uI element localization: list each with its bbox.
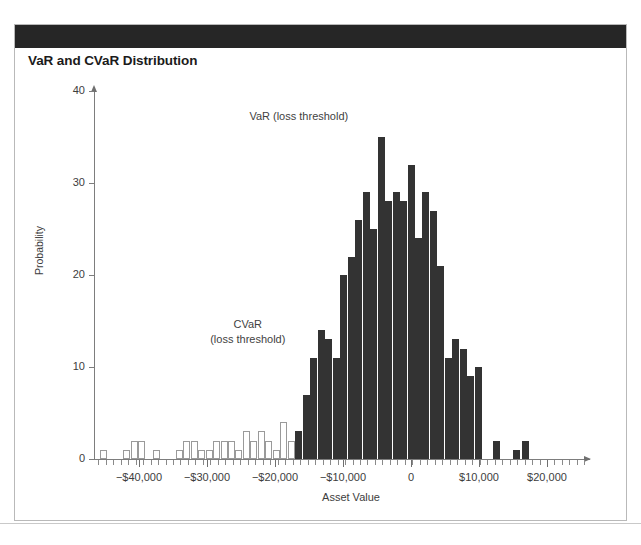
- x-tick-mark-minor: [106, 460, 107, 465]
- x-tick-label: −$40,000: [116, 471, 162, 483]
- histogram-bar: [235, 450, 242, 459]
- x-tick-label: −$20,000: [252, 471, 298, 483]
- histogram-bar: [522, 441, 529, 459]
- histogram-bar: [513, 450, 520, 459]
- x-tick-mark-minor: [300, 460, 301, 465]
- histogram-bar: [430, 211, 437, 459]
- x-tick-mark-minor: [188, 460, 189, 465]
- x-axis-title: Asset Value: [322, 491, 380, 503]
- x-tick-mark-minor: [450, 460, 451, 465]
- x-tick-mark-minor: [195, 460, 196, 465]
- histogram-bar: [393, 192, 400, 459]
- x-tick-label: $20,000: [527, 471, 567, 483]
- histogram-bar: [250, 441, 257, 459]
- histogram-bar: [206, 450, 213, 459]
- x-tick-mark-minor: [293, 460, 294, 465]
- histogram-bar: [191, 441, 198, 459]
- histogram-bar: [348, 257, 355, 459]
- histogram-bar: [460, 349, 467, 459]
- x-tick-mark-major: [479, 460, 480, 467]
- x-tick-mark-minor: [203, 460, 204, 465]
- x-tick-mark-minor: [562, 460, 563, 465]
- histogram-bar: [273, 450, 280, 459]
- histogram-bar: [437, 266, 444, 459]
- histogram-bar: [310, 358, 317, 459]
- histogram-bar: [138, 441, 145, 459]
- x-tick-mark-minor: [382, 460, 383, 465]
- histogram-bar: [325, 339, 332, 459]
- x-tick-mark-minor: [487, 460, 488, 465]
- histogram-bar: [333, 358, 340, 459]
- x-tick-mark-minor: [263, 460, 264, 465]
- x-tick-mark-minor: [323, 460, 324, 465]
- histogram-bar: [318, 330, 325, 459]
- x-axis-line: [94, 459, 590, 460]
- x-tick-mark-major: [275, 460, 276, 467]
- x-tick-mark-minor: [435, 460, 436, 465]
- x-tick-mark-minor: [532, 460, 533, 465]
- histogram-bar: [288, 441, 295, 459]
- x-tick-mark-minor: [375, 460, 376, 465]
- y-tick-mark: [89, 459, 94, 460]
- x-tick-mark-minor: [218, 460, 219, 465]
- x-tick-mark-major: [207, 460, 208, 467]
- histogram-bar: [370, 229, 377, 459]
- histogram-bar: [295, 431, 302, 459]
- histogram-bar: [213, 441, 220, 459]
- x-tick-mark-minor: [270, 460, 271, 465]
- cvar-annotation-line: (loss threshold): [210, 332, 285, 347]
- x-tick-mark-minor: [420, 460, 421, 465]
- histogram-bar: [445, 358, 452, 459]
- histogram-bar: [422, 192, 429, 459]
- histogram-bar: [400, 201, 407, 459]
- histogram-bar: [123, 450, 130, 459]
- x-tick-mark-minor: [540, 460, 541, 465]
- x-tick-mark-minor: [158, 460, 159, 465]
- x-tick-mark-minor: [136, 460, 137, 465]
- histogram-bar: [198, 450, 205, 459]
- histogram-bar: [493, 441, 500, 459]
- x-tick-mark-minor: [166, 460, 167, 465]
- page-bottom-rule: [0, 523, 641, 524]
- histogram-bar: [467, 376, 474, 459]
- histogram-bar: [243, 431, 250, 459]
- x-tick-mark-minor: [397, 460, 398, 465]
- x-tick-label: $10,000: [459, 471, 499, 483]
- cvar-threshold-annotation: CVaR(loss threshold): [210, 317, 285, 347]
- x-tick-mark-minor: [517, 460, 518, 465]
- x-tick-mark-minor: [128, 460, 129, 465]
- x-tick-mark-minor: [442, 460, 443, 465]
- plot-area: 010203040 −$40,000−$30,000−$20,000−$10,0…: [15, 25, 628, 522]
- histogram-bar: [131, 441, 138, 459]
- x-tick-mark-major: [343, 460, 344, 467]
- x-tick-mark-minor: [427, 460, 428, 465]
- x-tick-mark-minor: [569, 460, 570, 465]
- x-tick-mark-minor: [390, 460, 391, 465]
- x-tick-mark-minor: [308, 460, 309, 465]
- x-tick-mark-minor: [121, 460, 122, 465]
- figure-page: VaR and CVaR Distribution 010203040 −$40…: [0, 0, 641, 545]
- x-tick-mark-major: [139, 460, 140, 467]
- histogram-bar: [265, 441, 272, 459]
- x-tick-mark-minor: [255, 460, 256, 465]
- x-tick-mark-minor: [412, 460, 413, 465]
- x-tick-mark-minor: [525, 460, 526, 465]
- histogram-bar: [280, 422, 287, 459]
- histogram-bar: [258, 431, 265, 459]
- x-tick-mark-minor: [330, 460, 331, 465]
- x-tick-label: −$10,000: [320, 471, 366, 483]
- x-tick-mark-minor: [360, 460, 361, 465]
- histogram-bar: [303, 395, 310, 459]
- x-tick-mark-minor: [151, 460, 152, 465]
- x-tick-mark-minor: [338, 460, 339, 465]
- histogram-bar: [475, 367, 482, 459]
- x-tick-mark-minor: [367, 460, 368, 465]
- x-tick-mark-minor: [457, 460, 458, 465]
- histogram-bar: [452, 339, 459, 459]
- histogram-bar: [415, 238, 422, 459]
- histogram-bar: [385, 201, 392, 459]
- x-tick-mark-minor: [577, 460, 578, 465]
- histogram-bar: [408, 165, 415, 459]
- figure-frame: VaR and CVaR Distribution 010203040 −$40…: [14, 24, 627, 521]
- var-threshold-annotation: VaR (loss threshold): [249, 109, 348, 124]
